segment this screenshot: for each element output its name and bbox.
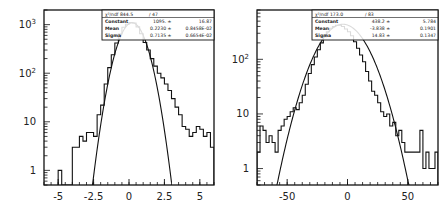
y-tick-label: 103 bbox=[19, 18, 36, 30]
gaussian-fit-curve bbox=[92, 23, 171, 185]
stats-box: χ²/ndf 173.0/ 83Constant438.2 ±5.784Mean… bbox=[312, 10, 438, 40]
stats-param-error: 16.87 bbox=[199, 19, 212, 24]
y-tick-label: 10 bbox=[236, 108, 249, 119]
stats-param-value: 14.83 ± bbox=[372, 33, 391, 38]
y-tick-label: 1 bbox=[243, 163, 249, 174]
stats-param-error: 0.1347 bbox=[420, 33, 436, 38]
histogram-series bbox=[58, 23, 214, 185]
y-tick-label: 102 bbox=[232, 53, 249, 65]
stats-chi2-label: χ²/ndf 844.5 bbox=[105, 12, 133, 17]
left-histogram-panel: 110102103-5-2.502.55χ²/ndf 844.5/ 47Cons… bbox=[19, 10, 214, 202]
stats-param-value: 438.2 ± bbox=[372, 19, 391, 24]
y-tick-label: 102 bbox=[19, 67, 36, 79]
stats-ndf: / 47 bbox=[149, 12, 158, 17]
stats-param-name: Sigma bbox=[105, 33, 121, 38]
right-histogram-panel: 110102-50050χ²/ndf 173.0/ 83Constant438.… bbox=[232, 10, 438, 202]
stats-param-error: 0.8458E-02 bbox=[186, 26, 213, 31]
stats-param-name: Mean bbox=[105, 26, 119, 31]
x-tick-label: 5 bbox=[197, 191, 203, 202]
stats-param-error: 5.784 bbox=[423, 19, 436, 24]
x-tick-label: 0 bbox=[344, 191, 350, 202]
figure: 110102103-5-2.502.55χ²/ndf 844.5/ 47Cons… bbox=[0, 0, 447, 211]
stats-param-value: 1095. ± bbox=[153, 19, 172, 24]
stats-param-error: 0.1901 bbox=[420, 26, 436, 31]
y-tick-label: 1 bbox=[30, 165, 36, 176]
stats-param-error: 0.6654E-02 bbox=[186, 33, 213, 38]
stats-param-name: Sigma bbox=[315, 33, 331, 38]
stats-ndf: / 83 bbox=[365, 12, 374, 17]
stats-box: χ²/ndf 844.5/ 47Constant1095. ±16.87Mean… bbox=[102, 10, 214, 40]
stats-param-name: Constant bbox=[105, 19, 129, 24]
x-tick-label: -50 bbox=[279, 191, 295, 202]
stats-param-name: Mean bbox=[315, 26, 329, 31]
gaussian-fit-curve bbox=[277, 24, 409, 185]
stats-param-name: Constant bbox=[315, 19, 339, 24]
y-tick-label: 10 bbox=[23, 116, 36, 127]
stats-param-value: 0.2230 ± bbox=[150, 26, 172, 31]
stats-chi2-label: χ²/ndf 173.0 bbox=[315, 12, 343, 17]
histogram-series bbox=[257, 25, 438, 185]
x-tick-label: -2.5 bbox=[84, 191, 104, 202]
x-tick-label: 2.5 bbox=[156, 191, 172, 202]
x-tick-label: 0 bbox=[126, 191, 132, 202]
stats-param-value: -3.838 ± bbox=[370, 26, 390, 31]
x-tick-label: -5 bbox=[53, 191, 63, 202]
stats-param-value: 0.7135 ± bbox=[150, 33, 172, 38]
x-tick-label: 50 bbox=[401, 191, 414, 202]
